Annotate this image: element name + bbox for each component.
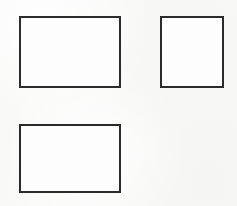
rectangle-top-left[interactable] <box>19 16 121 88</box>
rectangle-top-right[interactable] <box>160 16 224 88</box>
drawing-canvas <box>0 0 237 206</box>
rectangle-bottom-left[interactable] <box>19 124 121 193</box>
